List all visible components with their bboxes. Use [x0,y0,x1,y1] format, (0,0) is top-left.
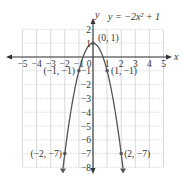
x-tick-label: −5 [17,59,27,69]
equation-label: y = −2x² + 1 [107,11,160,22]
x-tick-label: −4 [32,59,42,69]
data-point [105,69,109,73]
x-tick-label: 3 [133,59,138,69]
y-tick-label: 1 [86,39,91,49]
x-axis-left-arrow-icon [6,55,12,60]
y-tick-label: −7 [81,149,91,159]
x-tick-label: 5 [161,59,166,69]
x-tick-label: 4 [147,59,152,69]
y-tick-label: −5 [81,122,91,132]
y-tick-label: −3 [81,94,91,104]
data-point [119,152,123,156]
point-label: (−2, −7) [31,149,62,160]
y-tick-label: −6 [81,135,91,145]
x-tick-label: −2 [60,59,70,69]
x-axis-label: x [173,51,179,62]
y-tick-label: 2 [86,25,91,35]
y-tick-label: −8 [81,163,91,173]
y-axis-label: y [94,9,100,20]
y-axis-down-arrow-icon [91,168,96,174]
point-label: (0, 1) [98,33,119,44]
y-tick-label: −1 [81,66,91,76]
y-tick-label: −4 [81,108,91,118]
x-tick-label: −3 [46,59,56,69]
data-point [63,152,67,156]
curve-end-arrow-icon [120,168,126,173]
y-tick-label: −2 [81,80,91,90]
x-axis-right-arrow-icon [166,55,172,60]
data-point [91,41,95,45]
x-tick-label: 2 [119,59,124,69]
point-label: (2, −7) [124,149,150,160]
parabola-chart: (0, 1)(−1, −1)(1, −1)(−2, −7)(2, −7) −5−… [0,0,183,188]
curve-end-arrow-icon [60,168,66,173]
x-tick-label: 1 [105,59,110,69]
